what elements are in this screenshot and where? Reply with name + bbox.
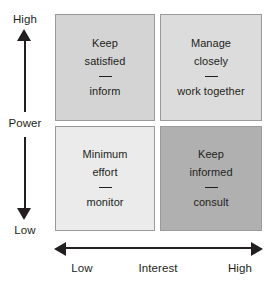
arrow-down-icon [17, 208, 31, 220]
quadrant-action: monitor [86, 197, 123, 208]
quadrant-strategy-line-1: Minimum [83, 149, 128, 160]
quadrant-minimum-effort[interactable]: Minimum effort monitor [55, 126, 155, 231]
matrix-grid: Keep satisfied inform Manage closely wor… [55, 14, 262, 231]
interest-axis-low-label: Low [60, 262, 104, 274]
power-axis-high-label: High [0, 13, 50, 25]
quadrant-strategy-line-2: effort [92, 167, 117, 178]
quadrant-strategy-line-1: Keep [198, 149, 224, 160]
interest-axis: Low Interest High [0, 238, 277, 282]
quadrant-strategy-line-2: closely [194, 56, 228, 67]
interest-axis-high-label: High [218, 262, 262, 274]
divider-dash [205, 187, 218, 188]
quadrant-keep-informed[interactable]: Keep informed consult [160, 126, 262, 231]
quadrant-action: consult [193, 197, 228, 208]
quadrant-action: work together [177, 86, 244, 97]
quadrant-strategy-line-2: satisfied [85, 56, 126, 67]
quadrant-strategy-line-2: informed [189, 167, 232, 178]
divider-dash [205, 76, 218, 77]
quadrant-keep-satisfied[interactable]: Keep satisfied inform [55, 14, 155, 121]
stakeholder-matrix-diagram: High Power Low Keep satisfied inform Man… [0, 0, 277, 282]
arrow-left-icon [54, 242, 66, 256]
power-axis-title: Power [0, 117, 50, 129]
divider-dash [99, 187, 112, 188]
power-axis-lower-shaft [24, 137, 26, 209]
power-axis-low-label: Low [0, 224, 50, 236]
divider-dash [99, 76, 112, 77]
quadrant-strategy-line-1: Keep [92, 38, 118, 49]
power-axis-upper-shaft [24, 40, 26, 112]
power-axis: High Power Low [0, 0, 52, 240]
interest-axis-shaft [66, 247, 252, 249]
interest-axis-title: Interest [126, 262, 190, 274]
quadrant-action: inform [90, 86, 121, 97]
quadrant-manage-closely[interactable]: Manage closely work together [160, 14, 262, 121]
quadrant-strategy-line-1: Manage [191, 38, 231, 49]
arrow-right-icon [251, 242, 263, 256]
